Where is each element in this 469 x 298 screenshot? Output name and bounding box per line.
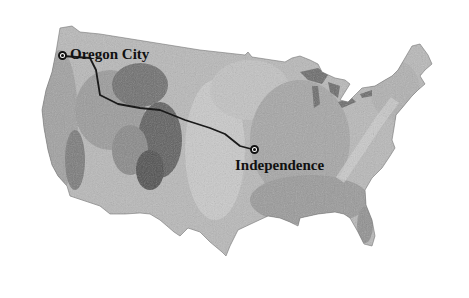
oregon-city-marker-icon (58, 51, 67, 60)
independence-marker-icon (250, 145, 259, 154)
relief-map (0, 0, 469, 298)
independence-label: Independence (235, 158, 324, 173)
oregon-city-label: Oregon City (70, 47, 149, 62)
